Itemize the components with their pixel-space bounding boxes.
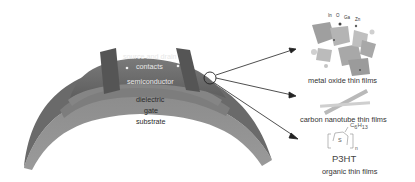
metal-oxide-structure-icon [311, 22, 376, 76]
contact-marker [177, 65, 180, 68]
label-dielectric: dielectric [136, 96, 164, 103]
caption-metal-oxide: metal oxide thin films [308, 77, 377, 84]
flexible-tft-diagram: source and drain contacts semiconductor … [0, 0, 415, 182]
atom-label-zn: Zn [355, 18, 360, 23]
side-chain-label: C6H13 [350, 122, 368, 131]
atom-label-ga: Ga [344, 16, 350, 21]
sulfur-atom-label: S [338, 138, 342, 144]
caption-carbon-nanotube: carbon nanotube thin films [300, 116, 387, 123]
atom-label-in: In [328, 14, 332, 19]
label-gate: gate [144, 107, 158, 114]
carbon-nanotube-icon [320, 89, 370, 115]
label-substrate: substrate [136, 118, 166, 125]
caption-organic: organic thin films [322, 168, 377, 175]
repeat-unit-label: n [355, 146, 358, 151]
atom-label-o: O [336, 14, 340, 19]
label-source-drain-line1: source and drain [123, 53, 177, 60]
label-semiconductor: semiconductor [127, 78, 174, 85]
label-source-drain-line2: contacts [136, 63, 163, 70]
contact-marker [126, 67, 129, 70]
caption-p3ht: P3HT [332, 154, 356, 164]
